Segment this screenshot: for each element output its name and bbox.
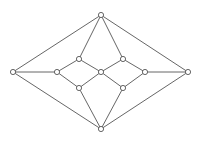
edge-upper-left-center	[79, 59, 101, 72]
node-inner-left	[54, 69, 59, 74]
node-top	[98, 12, 103, 17]
edge-center-upper-right	[101, 59, 123, 72]
node-lower-right	[120, 85, 125, 90]
node-lower-left	[76, 85, 81, 90]
edge-lower-right-inner-right	[123, 72, 145, 88]
edge-inner-left-lower-left	[57, 72, 79, 88]
node-right	[185, 69, 190, 74]
node-upper-right	[120, 56, 125, 61]
edge-lower-left-center	[79, 72, 101, 88]
edge-bottom-left	[13, 72, 101, 129]
node-upper-left	[76, 56, 81, 61]
node-inner-right	[142, 69, 147, 74]
edge-top-upper-right	[101, 15, 123, 59]
edge-top-right	[101, 15, 188, 72]
graph-diagram	[0, 0, 199, 143]
edge-top-left	[13, 15, 101, 72]
edge-bottom-lower-right	[101, 88, 123, 129]
node-center	[98, 69, 103, 74]
edge-center-lower-right	[101, 72, 123, 88]
node-left	[10, 69, 15, 74]
edge-upper-right-inner-right	[123, 59, 145, 72]
edge-bottom-lower-left	[79, 88, 101, 129]
node-bottom	[98, 126, 103, 131]
edge-bottom-right	[101, 72, 188, 129]
edge-inner-left-upper-left	[57, 59, 79, 72]
